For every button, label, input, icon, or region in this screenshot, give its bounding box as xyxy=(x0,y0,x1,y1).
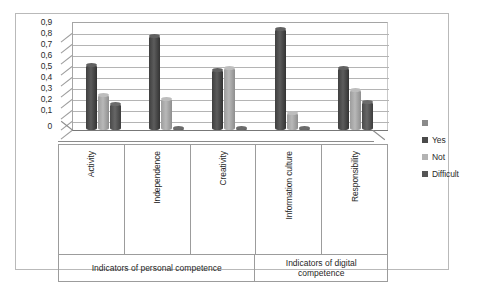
bar-group-information-culture xyxy=(261,22,324,130)
y-tick: 0,7 xyxy=(41,40,52,48)
legend-swatch-icon xyxy=(422,154,428,160)
category-cell: Creativity xyxy=(191,145,257,254)
y-tick: 0,8 xyxy=(41,29,52,37)
category-label: Creativity xyxy=(218,151,228,185)
bar-not xyxy=(350,90,361,130)
category-label: Independence xyxy=(152,151,162,204)
depth-edge xyxy=(61,33,73,42)
legend-item-yes: Yes xyxy=(422,131,482,148)
legend-label: Not xyxy=(432,152,445,162)
legend-label: Difficult xyxy=(432,169,459,179)
bar-not xyxy=(98,95,109,130)
legend-swatch-icon xyxy=(422,120,428,126)
bar-difficult xyxy=(110,104,121,130)
depth-edge xyxy=(61,88,73,97)
legend-label: Yes xyxy=(432,135,446,145)
legend-swatch-icon xyxy=(422,137,428,143)
y-tick: 0,4 xyxy=(41,73,52,81)
category-label-row: Activity Independence Creativity Informa… xyxy=(58,144,388,254)
plot-floor xyxy=(58,130,388,142)
legend-item xyxy=(422,114,482,131)
category-label: Responsibility xyxy=(350,151,360,202)
bar-not xyxy=(161,99,172,130)
depth-edge xyxy=(61,99,73,108)
category-label: Information culture xyxy=(284,151,294,220)
y-tick: 0,1 xyxy=(41,106,52,114)
y-axis-labels: 0,9 0,8 0,7 0,6 0,5 0,4 0,3 0,2 0,1 0 xyxy=(16,14,56,134)
chart-figure: 0,9 0,8 0,7 0,6 0,5 0,4 0,3 0,2 0,1 0 xyxy=(0,0,484,287)
bar-not xyxy=(224,68,235,130)
legend-item-difficult: Difficult xyxy=(422,165,482,182)
bar-yes xyxy=(149,36,160,130)
depth-edge xyxy=(61,110,73,119)
bar-not xyxy=(287,113,298,130)
legend-swatch-icon xyxy=(422,171,428,177)
category-group-label: Indicators of digitalcompetence xyxy=(286,258,357,278)
y-tick: 0,3 xyxy=(41,84,52,92)
depth-edge xyxy=(61,77,73,86)
category-group-row: Indicators of personal competence Indica… xyxy=(58,254,388,282)
bar-yes xyxy=(86,65,97,130)
bar-group-creativity xyxy=(198,22,261,130)
category-cell: Responsibility xyxy=(322,145,387,254)
bar-yes xyxy=(338,68,349,130)
y-tick: 0,9 xyxy=(41,18,52,26)
plot-area xyxy=(58,22,388,142)
category-group-label-line2: competence xyxy=(298,268,344,278)
y-tick: 0,5 xyxy=(41,62,52,70)
chart-frame: 0,9 0,8 0,7 0,6 0,5 0,4 0,3 0,2 0,1 0 xyxy=(15,13,449,270)
chart-legend: Yes Not Difficult xyxy=(422,114,482,182)
legend-item-not: Not xyxy=(422,148,482,165)
depth-edge xyxy=(61,66,73,75)
bar-yes xyxy=(275,29,286,130)
y-tick: 0 xyxy=(47,122,52,130)
y-tick: 0,6 xyxy=(41,51,52,59)
category-cell: Activity xyxy=(59,145,125,254)
category-group-digital: Indicators of digitalcompetence xyxy=(255,255,387,281)
category-cell: Independence xyxy=(125,145,191,254)
bar-yes xyxy=(212,70,223,130)
y-tick: 0,2 xyxy=(41,95,52,103)
category-label: Activity xyxy=(86,151,96,177)
bar-group-responsibility xyxy=(324,22,387,130)
bar-groups xyxy=(72,22,388,130)
category-group-label: Indicators of personal competence xyxy=(92,263,222,273)
category-group-label-line1: Indicators of digital xyxy=(286,258,357,268)
bar-group-activity xyxy=(72,22,135,130)
category-group-personal: Indicators of personal competence xyxy=(59,255,255,281)
depth-edge xyxy=(61,55,73,64)
bar-difficult xyxy=(362,102,373,130)
bar-group-independence xyxy=(135,22,198,130)
depth-edge xyxy=(61,44,73,53)
category-cell: Information culture xyxy=(256,145,322,254)
